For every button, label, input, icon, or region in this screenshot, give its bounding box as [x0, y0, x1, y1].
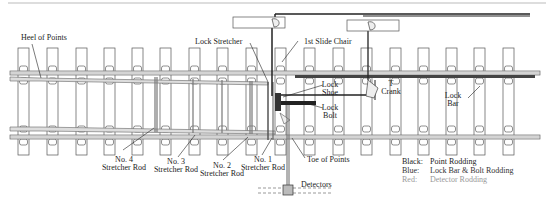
- t-crank-label: T Crank: [378, 80, 404, 96]
- legend-row-blue: Blue: Lock Bar & Bolt Rodding: [402, 166, 514, 175]
- rail-chair: [162, 139, 170, 145]
- rail-chair: [277, 78, 285, 84]
- rail-chair: [448, 78, 456, 84]
- detectors-label: Detectors: [301, 181, 332, 189]
- rail-chair: [392, 126, 400, 132]
- rail-chair: [248, 139, 256, 145]
- legend: Black: Point Rodding Blue: Lock Bar & Bo…: [402, 157, 514, 184]
- rail-chair: [363, 126, 371, 132]
- rail-chair: [277, 126, 285, 132]
- lock-stretcher-label: Lock Stretcher: [195, 38, 242, 46]
- rail-chair: [476, 126, 484, 132]
- rail-chair: [306, 139, 314, 145]
- rail-chair: [306, 78, 314, 84]
- rail-chair: [363, 139, 371, 145]
- legend-row-red: Red: Detector Rodding: [402, 175, 514, 184]
- stretcher-rod-4-label: No. 4 Stretcher Rod: [100, 156, 148, 172]
- toe-of-points-label: Toe of Points: [307, 156, 350, 164]
- lock-bolt-label: Lock Bolt: [318, 104, 342, 120]
- rail-chair: [448, 139, 456, 145]
- rail-chair: [476, 139, 484, 145]
- rail-chair: [106, 139, 114, 145]
- rail-chair: [335, 139, 343, 145]
- rail-chair: [335, 126, 343, 132]
- rail-chair: [420, 139, 428, 145]
- stretcher-rod-3-label: No. 3 Stretcher Rod: [152, 158, 200, 174]
- legend-row-black: Black: Point Rodding: [402, 157, 514, 166]
- stretcher-rod-1-label: No. 3 No. 1 Stretcher Rod: [239, 156, 287, 172]
- rail-chair: [476, 78, 484, 84]
- rail-chair: [20, 139, 28, 145]
- lock-bar: [295, 75, 535, 78]
- rail-chair: [277, 139, 285, 145]
- lock-shoe-label: Lock Shoe: [318, 81, 342, 97]
- rail-chair: [306, 126, 314, 132]
- rail-chair: [49, 139, 57, 145]
- lock-bar-label: Lock Bar: [441, 92, 465, 108]
- first-slide-chair-label: 1st Slide Chair: [304, 38, 352, 46]
- rail-chair: [448, 126, 456, 132]
- rail-chair: [505, 126, 513, 132]
- rail-chair: [392, 139, 400, 145]
- rail-chair: [505, 78, 513, 84]
- rail-chair: [191, 139, 199, 145]
- rail-chair: [78, 139, 86, 145]
- rail-chair: [219, 139, 227, 145]
- point-rodding-diagram: Heel of Points Lock Stretcher 1st Slide …: [0, 0, 546, 206]
- rail-chair: [420, 126, 428, 132]
- rail-chair: [505, 139, 513, 145]
- heel-of-points-label: Heel of Points: [21, 34, 67, 42]
- rail-chair: [420, 78, 428, 84]
